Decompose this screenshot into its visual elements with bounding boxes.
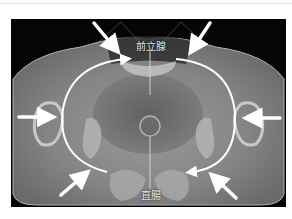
top-divider (0, 3, 292, 4)
ct-scan-image: 前立腺 直腸 (11, 19, 286, 207)
rectum-label: 直腸 (141, 187, 161, 202)
prostate-label: 前立腺 (136, 38, 166, 53)
